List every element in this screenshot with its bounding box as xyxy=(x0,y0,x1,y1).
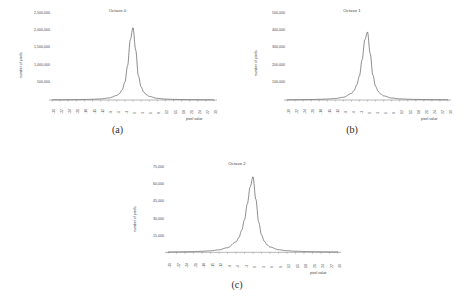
figure-panel-c: Octave 2 number of pixels pixel value 75… xyxy=(112,152,362,302)
figure-panel-b: Octave 1 number of pixels pixel value 50… xyxy=(235,0,469,148)
plot-area-b: Octave 1 number of pixels pixel value 50… xyxy=(235,0,469,118)
figure-panel-a: Octave 0 number of pixels pixel value 2,… xyxy=(0,0,235,148)
plot-area-a: Octave 0 number of pixels pixel value 2,… xyxy=(0,0,235,118)
chart-canvas-b xyxy=(235,0,469,118)
x-axis-label-c: pixel value xyxy=(310,271,327,275)
chart-canvas-a xyxy=(0,0,235,118)
chart-canvas-c xyxy=(112,152,362,270)
plot-area-c: Octave 2 number of pixels pixel value 75… xyxy=(112,152,362,270)
histogram-curve xyxy=(168,177,338,252)
histogram-curve xyxy=(52,28,214,100)
panel-caption-c: (c) xyxy=(112,279,362,290)
histogram-curve xyxy=(287,32,448,100)
panel-caption-b: (b) xyxy=(235,124,469,135)
panel-caption-a: (a) xyxy=(0,124,235,135)
